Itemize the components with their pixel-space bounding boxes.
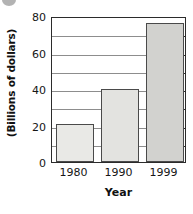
y-tick-label: 0 [39,157,46,170]
plot-area [51,17,186,163]
y-tick-label: 80 [32,11,46,24]
y-tick-label: 40 [32,84,46,97]
bar [56,124,94,162]
x-axis-title: Year [51,186,186,199]
y-axis-title: (Billions of dollars) [0,0,22,166]
y-tick-label: 60 [32,47,46,60]
bar-chart-figure: (Billions of dollars) 020406080 19801990… [0,0,193,214]
x-tick-label: 1990 [105,166,133,179]
bar-series [52,18,185,162]
x-axis-tick-labels: 198019901999 [51,166,186,184]
y-axis-title-text: (Billions of dollars) [5,29,17,137]
y-axis-tick-labels: 020406080 [20,10,49,167]
y-tick-label: 20 [32,120,46,133]
bar [101,89,139,162]
x-tick-label: 1980 [60,166,88,179]
bar [146,23,184,162]
x-tick-label: 1999 [150,166,178,179]
